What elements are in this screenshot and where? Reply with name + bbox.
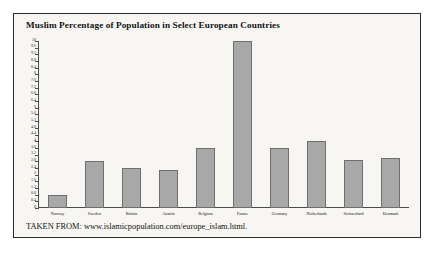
y-tick-label: 7.2	[31, 85, 36, 89]
y-tick-label: 5.6	[31, 111, 36, 115]
y-tick-label: 6	[34, 105, 36, 109]
y-tick-label: 9.6	[31, 44, 36, 48]
bar-group: Denmark	[372, 41, 409, 208]
y-tick-label: 8	[34, 71, 36, 75]
bar	[270, 148, 289, 208]
source-note: TAKEN FROM: www.islamicpopulation.com/eu…	[26, 222, 247, 231]
bar-group: Sweden	[76, 41, 113, 208]
y-tick-label: 1.6	[31, 178, 36, 182]
y-tick-label: 4.8	[31, 125, 36, 129]
plot-area: 109.69.28.88.487.67.26.86.465.65.24.84.4…	[38, 41, 409, 208]
x-tick-label: Austria	[162, 211, 174, 216]
y-tick-label: 4	[34, 138, 36, 142]
bar-group: Britain	[113, 41, 150, 208]
x-tick-label: France	[237, 211, 248, 216]
bar-group: Germany	[261, 41, 298, 208]
chart-title: Muslim Percentage of Population in Selec…	[26, 20, 280, 30]
bar-group: France	[224, 41, 261, 208]
bar-group: Austria	[150, 41, 187, 208]
bar	[233, 41, 252, 208]
x-tick-label: Belgium	[198, 211, 212, 216]
y-tick-label: 9.2	[31, 51, 36, 55]
bar	[122, 168, 141, 208]
y-tick-label: 2	[34, 171, 36, 175]
bar-group: Switzerland	[335, 41, 372, 208]
x-tick-label: Sweden	[88, 211, 101, 216]
bar	[307, 141, 326, 208]
y-tick-label: 8.8	[31, 58, 36, 62]
y-tick-label: 10	[32, 38, 36, 42]
bar	[381, 158, 400, 208]
x-tick-label: Netherlands	[306, 211, 326, 216]
y-tick-label: 7.6	[31, 78, 36, 82]
y-tick-label: 2.8	[31, 158, 36, 162]
bar	[196, 148, 215, 208]
y-tick-label: 1.2	[31, 185, 36, 189]
figure-frame: Muslim Percentage of Population in Selec…	[13, 13, 421, 238]
y-tick-label: 0.4	[31, 198, 36, 202]
bar-group: Belgium	[187, 41, 224, 208]
bar-group: Norway	[39, 41, 76, 208]
x-tick-label: Britain	[126, 211, 138, 216]
bar	[344, 160, 363, 208]
y-tick-label: 4.4	[31, 131, 36, 135]
bar	[159, 170, 178, 208]
y-tick-label: 3.6	[31, 145, 36, 149]
y-tick-label: 3.2	[31, 151, 36, 155]
x-tick-label: Denmark	[383, 211, 399, 216]
y-tick-label: 0	[34, 205, 36, 209]
x-tick-label: Norway	[51, 211, 65, 216]
bars-layer: NorwaySwedenBritainAustriaBelgiumFranceG…	[39, 41, 409, 208]
y-tick-label: 2.4	[31, 165, 36, 169]
x-tick-label: Switzerland	[343, 211, 363, 216]
y-tick-label: 8.4	[31, 65, 36, 69]
bar	[48, 195, 67, 208]
y-tick-label: 6.4	[31, 98, 36, 102]
y-tick-label: 5.2	[31, 118, 36, 122]
y-tick-label: 0.8	[31, 191, 36, 195]
y-tick-label: 6.8	[31, 91, 36, 95]
x-tick-label: Germany	[272, 211, 288, 216]
bar-group: Netherlands	[298, 41, 335, 208]
figure-page: Muslim Percentage of Population in Selec…	[0, 0, 434, 254]
bar	[85, 161, 104, 208]
